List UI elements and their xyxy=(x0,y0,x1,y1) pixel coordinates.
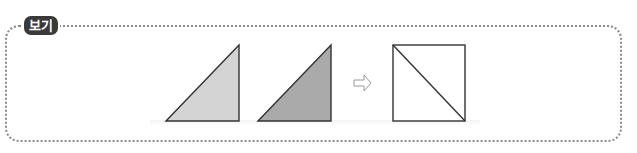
square-with-diagonal xyxy=(393,45,465,121)
dark-triangle xyxy=(258,45,331,121)
arrow-right-icon xyxy=(354,75,371,91)
figure-area xyxy=(0,0,637,153)
light-triangle xyxy=(166,45,239,121)
